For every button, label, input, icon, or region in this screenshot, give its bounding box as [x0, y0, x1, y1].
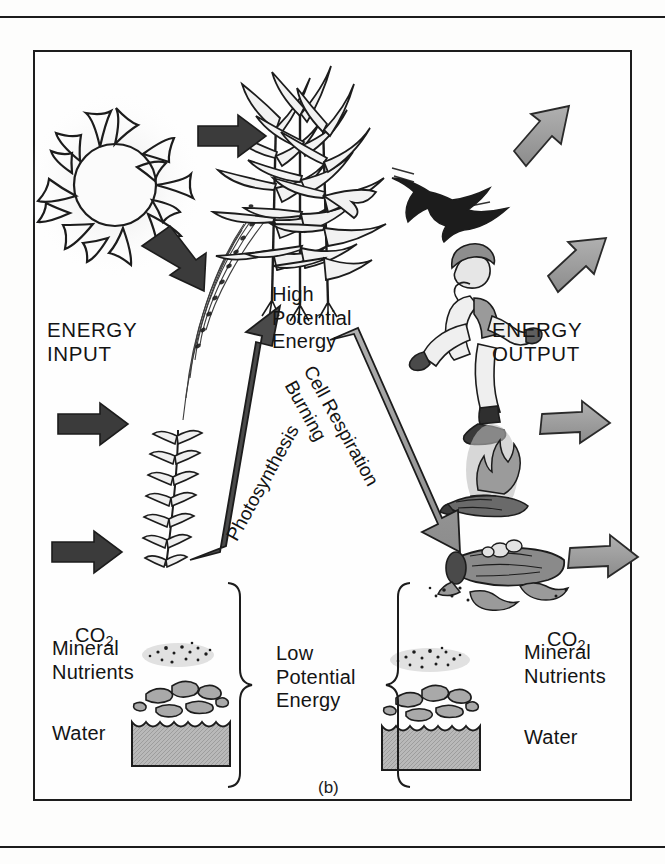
energy-input-label: ENERGY INPUT — [47, 318, 137, 366]
energy-output-label: ENERGY OUTPUT — [492, 318, 582, 366]
water-label-right: Water — [524, 726, 578, 750]
bottom-rule — [0, 846, 665, 848]
high-potential-energy-label: High Potential Energy — [272, 283, 352, 354]
mineral-nutrients-label-left: Mineral Nutrients — [52, 637, 134, 684]
figure-caption: (b) — [318, 778, 339, 798]
mineral-nutrients-label-right: Mineral Nutrients — [524, 641, 606, 688]
figure-page: ENERGY INPUT ENERGY OUTPUT High Potentia… — [0, 0, 665, 864]
low-potential-energy-label: Low Potential Energy — [276, 642, 356, 713]
water-label-left: Water — [52, 722, 106, 746]
top-rule — [0, 16, 665, 18]
